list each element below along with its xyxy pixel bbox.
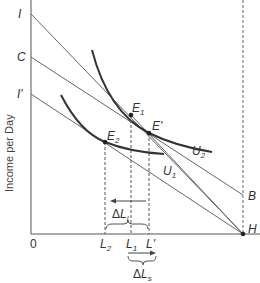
label-U2: U2 [192, 144, 206, 160]
label-U1: U1 [163, 164, 176, 180]
label-E-prime: E' [152, 119, 163, 133]
point-E-prime [147, 131, 152, 136]
arrow-right-icon [150, 251, 156, 256]
budget-line-I-prime-H [31, 94, 243, 234]
label-L2: L2 [100, 237, 112, 253]
arrow-left-icon [110, 199, 116, 204]
brace-substitution-effect [128, 256, 156, 265]
label-B: B [248, 189, 256, 203]
label-I: I [18, 7, 22, 21]
label-C: C [17, 50, 26, 64]
labor-leisure-diagram: I C I' Income per Day 0 B H E1 E' E2 U2 … [0, 0, 260, 283]
label-E2: E2 [107, 129, 120, 145]
point-H [241, 232, 246, 237]
label-E1: E1 [132, 101, 144, 117]
label-L-prime: L' [146, 237, 156, 251]
label-delta-L-i: ΔLi [112, 207, 129, 223]
label-I-prime: I' [17, 87, 23, 101]
y-axis-title: Income per Day [3, 114, 15, 192]
origin-label: 0 [30, 237, 37, 251]
label-H: H [248, 222, 257, 236]
label-L1: L1 [126, 237, 137, 253]
label-delta-L-s: ΔLs [133, 267, 152, 283]
